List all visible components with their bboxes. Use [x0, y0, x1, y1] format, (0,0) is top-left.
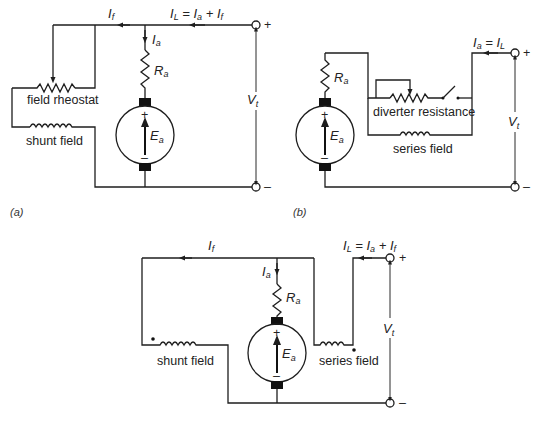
- terminal-plus: [511, 49, 519, 57]
- shunt-polarity-dot: [151, 337, 155, 341]
- label-ia: Ia: [152, 32, 161, 48]
- label-vt: Vt: [247, 92, 259, 109]
- label-load-equation: IL = Ia + If: [170, 6, 225, 22]
- label-shunt-field: shunt field: [157, 354, 214, 368]
- label-if: If: [208, 238, 216, 254]
- label-ea: Ea: [282, 346, 296, 363]
- open-switch: [443, 86, 455, 98]
- dc-machine-circuits: If IL = Ia + If Ia Ra Ea + – Vt + – fiel…: [0, 0, 543, 425]
- label-ea: Ea: [330, 128, 344, 145]
- armature-resistance: [141, 50, 149, 98]
- label-ra: Ra: [154, 63, 168, 79]
- label-load-equation: Ia = IL: [473, 35, 505, 51]
- terminal-minus-label: –: [523, 180, 530, 194]
- shunt-field-coil: [142, 258, 386, 403]
- caption-a: (a): [10, 206, 24, 218]
- armature-minus: –: [321, 151, 328, 165]
- terminal-minus-label: –: [264, 180, 271, 194]
- brush-top: [139, 98, 151, 106]
- armature-resistance: [321, 53, 329, 98]
- label-shunt-field: shunt field: [26, 134, 83, 148]
- label-ra: Ra: [286, 290, 300, 306]
- terminal-plus-label: +: [523, 46, 530, 60]
- armature-minus: –: [273, 369, 280, 383]
- terminal-plus: [386, 254, 394, 262]
- bottom-wire: [325, 171, 511, 187]
- armature-plus: +: [141, 108, 148, 122]
- label-ea: Ea: [150, 128, 164, 145]
- caption-b: (b): [293, 206, 307, 218]
- armature-resistance: [273, 284, 281, 318]
- series-polarity-dot: [352, 348, 356, 352]
- rheostat-right-wire: [75, 25, 95, 88]
- label-ra: Ra: [334, 70, 348, 86]
- series-field-coil: [368, 53, 511, 135]
- label-if: If: [108, 6, 116, 22]
- label-vt: Vt: [383, 321, 395, 338]
- label-load-equation: IL = Ia + If: [343, 238, 398, 254]
- label-ia: Ia: [262, 264, 271, 280]
- label-field-rheostat: field rheostat: [27, 93, 99, 107]
- circuit-b-series-generator: Ia = IL Ra Ea + – Vt + – diverter resist…: [293, 35, 530, 218]
- terminal-minus-label: –: [399, 396, 406, 410]
- diverter-resistance: [390, 94, 442, 102]
- label-series-field: series field: [393, 142, 453, 156]
- field-rheostat: [12, 84, 75, 92]
- label-series-field: series field: [319, 354, 379, 368]
- armature-minus: –: [141, 151, 148, 165]
- terminal-minus: [386, 399, 394, 407]
- armature-plus: +: [273, 326, 280, 340]
- circuit-c-compound-generator: If IL = Ia + If Ia Ra Ea + – Vt + – shun…: [142, 238, 406, 410]
- label-vt: Vt: [508, 114, 520, 131]
- terminal-minus: [252, 183, 260, 191]
- armature-plus: +: [321, 108, 328, 122]
- terminal-minus: [511, 183, 519, 191]
- brush-top: [319, 98, 331, 106]
- circuit-a-shunt-generator: If IL = Ia + If Ia Ra Ea + – Vt + – fiel…: [10, 6, 271, 218]
- terminal-plus: [252, 21, 260, 29]
- label-diverter-resistance: diverter resistance: [373, 105, 475, 119]
- terminal-plus-label: +: [399, 251, 406, 265]
- series-field-coil: [314, 258, 386, 345]
- terminal-plus-label: +: [264, 18, 271, 32]
